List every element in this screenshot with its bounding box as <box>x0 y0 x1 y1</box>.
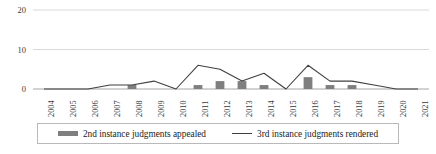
x-tick-label: 2015 <box>290 100 298 117</box>
x-tick-label: 2018 <box>356 100 364 117</box>
x-tick-label: 2016 <box>312 100 320 117</box>
x-tick-label: 2021 <box>422 100 430 117</box>
y-tick-label: 20 <box>18 6 27 15</box>
bar <box>238 81 247 89</box>
chart-legend: 2nd instance judgments appealed 3rd inst… <box>37 123 399 144</box>
x-tick-label: 2014 <box>268 100 276 117</box>
y-axis: 20100 <box>0 0 30 99</box>
x-tick-label: 2004 <box>48 100 56 117</box>
bar <box>260 85 269 89</box>
bar <box>216 81 225 89</box>
x-tick-label: 2010 <box>180 100 188 117</box>
bar <box>304 77 313 89</box>
legend-label-line: 3rd instance judgments rendered <box>257 129 378 139</box>
x-tick-label: 2009 <box>158 100 166 117</box>
bar-series <box>128 77 357 89</box>
legend-item-bar: 2nd instance judgments appealed <box>58 129 206 139</box>
legend-label-bar: 2nd instance judgments appealed <box>83 129 206 139</box>
bar <box>128 85 137 89</box>
bar-swatch-icon <box>58 131 78 136</box>
y-tick-label: 10 <box>18 46 27 55</box>
x-tick-label: 2007 <box>114 100 122 117</box>
plot-svg <box>33 10 429 89</box>
x-tick-label: 2013 <box>246 100 254 117</box>
x-tick-label: 2020 <box>400 100 408 117</box>
x-tick-label: 2011 <box>202 101 210 117</box>
bar <box>348 85 357 89</box>
x-tick-label: 2019 <box>378 100 386 117</box>
plot-area <box>33 10 429 89</box>
gridlines <box>33 10 429 89</box>
y-tick-label: 0 <box>22 85 26 94</box>
x-tick-label: 2008 <box>136 100 144 117</box>
bar <box>326 85 335 89</box>
x-tick-label: 2005 <box>70 100 78 117</box>
x-tick-label: 2017 <box>334 100 342 117</box>
line-series <box>44 65 418 89</box>
legend-item-line: 3rd instance judgments rendered <box>232 129 378 139</box>
chart-container: 20100 2004200520062007200820092010201120… <box>0 0 436 154</box>
line-path <box>44 65 418 89</box>
x-tick-label: 2006 <box>92 100 100 117</box>
x-tick-label: 2012 <box>224 100 232 117</box>
x-axis: 2004200520062007200820092010201120122013… <box>33 91 429 121</box>
line-swatch-icon <box>232 133 252 134</box>
bar <box>194 85 203 89</box>
